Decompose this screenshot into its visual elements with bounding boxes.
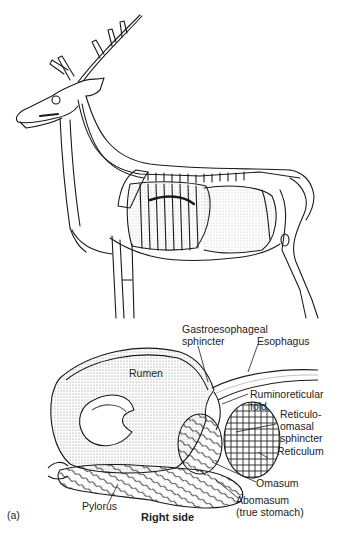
label-esophagus: Esophagus xyxy=(257,335,310,347)
label-pylorus: Pylorus xyxy=(82,500,117,512)
label-line: omasal xyxy=(280,420,323,432)
view-label: Right side xyxy=(141,511,194,523)
label-line: Reticulo- xyxy=(280,408,323,420)
label-line: Gastroesophageal xyxy=(182,323,268,335)
label-line: sphincter xyxy=(280,432,323,444)
label-line: (true stomach) xyxy=(236,506,304,518)
panel-label: (a) xyxy=(7,509,20,521)
label-line: Ruminoreticular xyxy=(250,388,324,400)
label-line: Abomasum xyxy=(236,494,304,506)
label-reticulo-omasal-sphincter: Reticulo- omasal sphincter xyxy=(280,408,323,444)
ruminant-stomach-figure: Gastroesophageal sphincter Esophagus Rum… xyxy=(0,0,341,537)
label-line: sphincter xyxy=(182,335,268,347)
label-reticulum: Reticulum xyxy=(277,445,324,457)
label-abomasum: Abomasum (true stomach) xyxy=(236,494,304,518)
label-omasum: Omasum xyxy=(256,477,299,489)
label-gastroesophageal-sphincter: Gastroesophageal sphincter xyxy=(182,323,268,347)
label-rumen: Rumen xyxy=(129,367,163,379)
